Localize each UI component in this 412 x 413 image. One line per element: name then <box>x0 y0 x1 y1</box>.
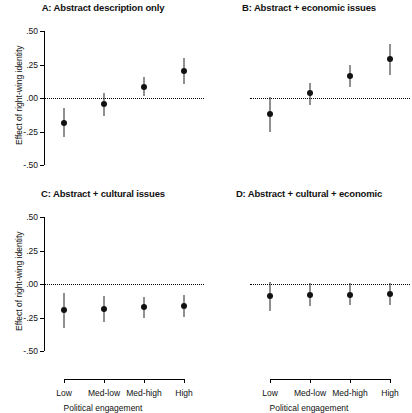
x-axis-title: Political engagement <box>206 403 412 413</box>
data-point <box>267 293 273 299</box>
y-axis-tick <box>40 132 44 133</box>
y-axis-tick <box>40 217 44 218</box>
x-axis-tick <box>184 379 185 383</box>
panel-d: D: Abstract + cultural + economicLowMed-… <box>206 188 412 397</box>
zero-reference-line <box>250 284 410 285</box>
x-axis-tick <box>64 379 65 383</box>
y-axis-tick <box>40 251 44 252</box>
data-point <box>141 84 147 90</box>
x-axis-label-low: Low <box>56 388 72 398</box>
data-point <box>101 306 107 312</box>
zero-reference-line <box>250 98 410 99</box>
y-axis-tick <box>40 165 44 166</box>
panel-c: C: Abstract + cultural issues.50.25.00-.… <box>0 188 206 397</box>
panel-title-d: D: Abstract + cultural + economic <box>206 188 412 199</box>
y-axis-tick <box>40 31 44 32</box>
data-point <box>61 120 67 126</box>
x-axis-label-med-low: Med-low <box>294 388 326 398</box>
x-axis-tick <box>310 379 311 383</box>
x-axis-title: Political engagement <box>0 403 206 413</box>
y-axis-tick <box>40 65 44 66</box>
y-axis-tick <box>40 351 44 352</box>
plot-area-c <box>44 217 204 351</box>
data-point <box>61 307 67 313</box>
panel-b: B: Abstract + economic issues <box>206 2 412 188</box>
y-axis-line <box>44 31 45 165</box>
plot-area-d <box>250 217 410 351</box>
zero-reference-line <box>44 98 204 99</box>
x-axis-line <box>64 379 184 380</box>
y-axis-label: .50 <box>12 26 38 36</box>
y-axis-tick <box>40 284 44 285</box>
data-point <box>141 304 147 310</box>
x-axis-label-low: Low <box>262 388 278 398</box>
panel-title-a: A: Abstract description only <box>0 2 206 13</box>
zero-reference-line <box>44 284 204 285</box>
y-axis-label: -.50 <box>12 160 38 170</box>
x-axis-label-med-low: Med-low <box>88 388 120 398</box>
x-axis-tick <box>270 379 271 383</box>
y-axis-tick <box>40 318 44 319</box>
x-axis-label-high: High <box>175 388 192 398</box>
panel-title-c: C: Abstract + cultural issues <box>0 188 206 199</box>
data-point <box>347 73 353 79</box>
plot-area-b <box>250 31 410 165</box>
data-point <box>181 68 187 74</box>
y-axis-label: -.50 <box>12 346 38 356</box>
y-axis-title: Effect of right-wing identity <box>14 231 24 331</box>
panel-title-b: B: Abstract + economic issues <box>206 2 412 13</box>
x-axis-label-med-high: Med-high <box>332 388 367 398</box>
data-point <box>181 303 187 309</box>
data-point <box>307 292 313 298</box>
x-axis-label-med-high: Med-high <box>126 388 161 398</box>
y-axis-title: Effect of right-wing identity <box>14 45 24 145</box>
panel-a: A: Abstract description only.50.25.00-.2… <box>0 2 206 188</box>
x-axis-line <box>270 379 390 380</box>
x-axis-label-high: High <box>381 388 398 398</box>
data-point <box>387 56 393 62</box>
x-axis-tick <box>390 379 391 383</box>
x-axis-tick <box>350 379 351 383</box>
x-axis-tick <box>144 379 145 383</box>
plot-area-a <box>44 31 204 165</box>
y-axis-label: .50 <box>12 212 38 222</box>
data-point <box>267 111 273 117</box>
y-axis-line <box>44 217 45 351</box>
data-point <box>101 101 107 107</box>
y-axis-tick <box>40 98 44 99</box>
data-point <box>347 292 353 298</box>
x-axis-tick <box>104 379 105 383</box>
data-point <box>387 291 393 297</box>
data-point <box>307 90 313 96</box>
